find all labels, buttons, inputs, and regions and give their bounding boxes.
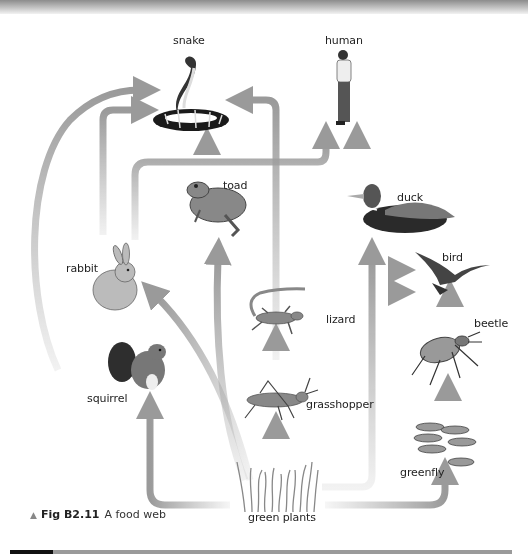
triangle-up-icon: ▲ — [30, 510, 37, 520]
arrow-plants-to-squirrel — [150, 412, 230, 505]
label-duck: duck — [397, 191, 423, 204]
label-greenfly: greenfly — [400, 466, 444, 479]
human-icon — [336, 50, 351, 125]
figure-caption-text: A food web — [104, 508, 166, 521]
label-squirrel: squirrel — [87, 392, 127, 405]
arrow-squirrel-to-snake — [35, 90, 140, 370]
label-rabbit: rabbit — [66, 262, 98, 275]
label-bird: bird — [442, 251, 463, 264]
rabbit-icon — [93, 243, 137, 310]
label-toad: toad — [223, 179, 247, 192]
arrow-plants-to-greenfly — [325, 478, 445, 505]
label-green-plants: green plants — [248, 511, 316, 524]
label-lizard: lizard — [326, 313, 355, 326]
food-web-diagram — [0, 0, 528, 554]
squirrel-icon — [108, 342, 166, 390]
label-beetle: beetle — [474, 317, 508, 330]
label-human: human — [325, 34, 363, 47]
bottom-page-bar — [10, 550, 512, 554]
greenfly-icon — [414, 423, 476, 466]
beetle-icon — [412, 332, 482, 385]
snake-icon — [153, 56, 229, 131]
figure-caption: ▲Fig B2.11A food web — [30, 508, 166, 521]
figure-number: Fig B2.11 — [41, 508, 100, 521]
label-grasshopper: grasshopper — [306, 398, 374, 411]
label-snake: snake — [173, 34, 205, 47]
